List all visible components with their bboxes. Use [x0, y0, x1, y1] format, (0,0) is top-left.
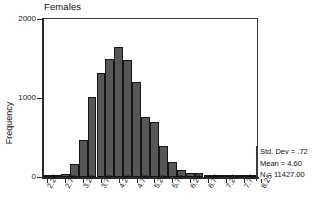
y-axis-tick-label: 2000: [2, 15, 36, 23]
histogram-bar: [150, 122, 159, 177]
y-axis-tick-label: 0: [2, 173, 36, 181]
y-axis-tick: [37, 98, 42, 99]
stat-n: N = 11427.00: [260, 169, 314, 181]
y-axis-tick: [37, 19, 42, 20]
histogram-bar: [123, 60, 132, 177]
histogram-bar: [114, 47, 123, 177]
statistics-box: Std. Dev = .72 Mean = 4.60 N = 11427.00: [256, 146, 314, 181]
stat-std-dev: Std. Dev = .72: [260, 146, 314, 158]
histogram-bar: [132, 82, 141, 177]
histogram-bar: [105, 59, 114, 178]
histogram-bar: [97, 73, 106, 177]
stat-mean: Mean = 4.60: [260, 158, 314, 170]
histogram-bar: [141, 117, 150, 177]
y-axis-tick: [37, 177, 42, 178]
histogram-bar: [79, 140, 88, 177]
histogram-bar: [88, 97, 97, 177]
y-axis-title: Frequency: [4, 88, 14, 158]
chart-title: Females: [44, 1, 81, 12]
histogram-bars: [43, 19, 257, 177]
